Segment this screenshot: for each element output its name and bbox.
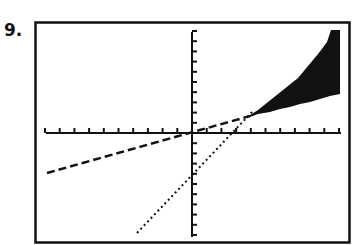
dashed-boundary-line (47, 116, 250, 173)
shaded-solution-region (247, 30, 340, 117)
calculator-graph (0, 0, 352, 245)
